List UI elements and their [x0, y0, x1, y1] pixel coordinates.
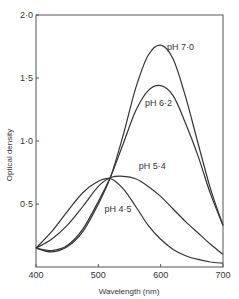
data-series: [36, 45, 223, 263]
series-label: pH 4·5: [105, 204, 132, 214]
series-line: [36, 178, 223, 263]
x-tick-label: 600: [153, 270, 168, 280]
y-tick-label: 1·0: [20, 136, 33, 146]
x-tick-label: 700: [215, 270, 230, 280]
series-label: pH 5·4: [139, 161, 166, 171]
y-axis-title: Optical density: [5, 129, 14, 181]
y-tick-label: 0·5: [20, 199, 33, 209]
x-tick-label: 500: [91, 270, 106, 280]
y-tick-label: 1·5: [20, 73, 33, 83]
series-label: pH 7·0: [167, 42, 194, 52]
series-label: pH 6·2: [145, 98, 172, 108]
optical-density-chart: 4005006007000·51·01·52·0 pH 7·0pH 6·2pH …: [0, 0, 239, 299]
x-axis-title: Wavelength (nm): [99, 287, 160, 296]
x-tick-label: 400: [28, 270, 43, 280]
y-tick-label: 2·0: [20, 10, 33, 20]
